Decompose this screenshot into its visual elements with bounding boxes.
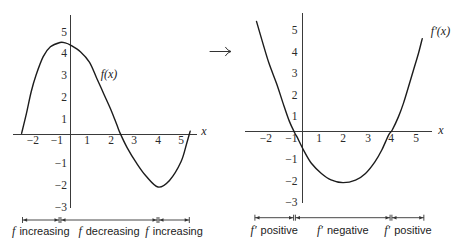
function-derivative-figure: −2−11234554321−1−2−3xf(x)fincreasingfdec… (0, 0, 465, 251)
curve-label: f(x) (101, 67, 118, 81)
y-tick-label: −3 (55, 201, 67, 213)
right-panel: −2−11234554321−1−2−3xf′(x)f′positivef′ne… (245, 13, 450, 237)
y-tick-label: 3 (61, 69, 67, 81)
interval-label: fdecreasing (78, 224, 139, 238)
y-tick-label: 5 (61, 26, 67, 38)
interval-label: f′positive (251, 223, 298, 237)
x-tick-label: 3 (365, 132, 371, 144)
interval-description: decreasing (86, 225, 140, 237)
arrowhead-left-icon (393, 216, 397, 220)
interval-bar (392, 215, 424, 221)
arrowhead-left-icon (23, 218, 27, 222)
arrowhead-right-icon (289, 216, 293, 220)
interval-bar (295, 215, 390, 221)
y-tick-label: 3 (292, 67, 298, 79)
interval-label: f′positive (384, 223, 431, 237)
x-tick-label: −2 (260, 132, 272, 144)
arrowhead-left-icon (296, 216, 300, 220)
y-tick-label: 1 (292, 110, 298, 122)
interval-label: fincreasing (145, 224, 202, 238)
arrowhead-right-icon (185, 218, 189, 222)
y-tick-label: 2 (292, 89, 298, 101)
x-tick-label: 2 (340, 132, 346, 144)
curve-label: f′(x) (431, 24, 450, 38)
y-tick-label: −2 (55, 179, 67, 191)
x-tick-label: 2 (108, 134, 114, 146)
interval-description: increasing (19, 225, 69, 237)
interval-function-name: f′ (317, 223, 323, 237)
y-tick-label: −2 (285, 175, 297, 187)
interval-description: positive (394, 224, 431, 236)
interval-description: increasing (153, 225, 203, 237)
x-tick-label: 5 (178, 134, 184, 146)
y-tick-label: 5 (292, 24, 298, 36)
arrowhead-left-icon (256, 216, 260, 220)
x-tick-label: −2 (27, 134, 39, 146)
arrowhead-right-icon (419, 216, 423, 220)
x-tick-label: −1 (51, 134, 63, 146)
x-tick-label: 3 (131, 134, 137, 146)
connector-arrow (210, 47, 231, 55)
series-curve-f (22, 42, 191, 187)
interval-bar (159, 217, 189, 223)
interval-bar (61, 217, 157, 223)
series-curve-f-prime (257, 21, 423, 182)
interval-label: f′negative (317, 223, 369, 237)
arrowhead-left-icon (62, 218, 66, 222)
interval-description: positive (261, 224, 298, 236)
right-arrow-icon (210, 47, 231, 55)
interval-function-name: f (145, 224, 150, 238)
interval-description: negative (327, 224, 369, 236)
interval-function-name: f (78, 224, 83, 238)
arrowhead-right-icon (153, 218, 157, 222)
x-axis-label: x (200, 124, 207, 138)
y-tick-label: 1 (61, 113, 67, 125)
interval-function-name: f (12, 224, 17, 238)
y-tick-label: 2 (61, 91, 67, 103)
interval-label: fincreasing (12, 224, 69, 238)
interval-function-name: f′ (251, 223, 257, 237)
interval-bar (255, 215, 294, 221)
x-tick-label: 1 (84, 134, 90, 146)
x-tick-label: 1 (316, 132, 322, 144)
arrowhead-right-icon (386, 216, 390, 220)
x-tick-label: 5 (413, 132, 419, 144)
y-tick-label: −1 (285, 153, 297, 165)
y-tick-label: −3 (285, 196, 297, 208)
interval-bar (23, 217, 60, 223)
x-tick-label: 4 (155, 134, 161, 146)
y-tick-label: 4 (61, 47, 67, 59)
y-tick-label: −1 (55, 157, 67, 169)
x-axis-label: x (437, 123, 444, 137)
arrowhead-right-icon (55, 218, 59, 222)
interval-function-name: f′ (384, 223, 390, 237)
left-panel: −2−11234554321−1−2−3xf(x)fincreasingfdec… (12, 15, 207, 238)
y-tick-label: 4 (292, 46, 298, 58)
arrowhead-left-icon (160, 218, 164, 222)
